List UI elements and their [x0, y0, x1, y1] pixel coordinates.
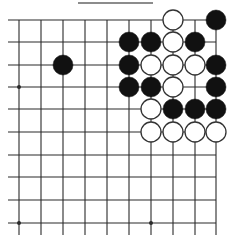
- white-stone[interactable]: [163, 55, 183, 75]
- black-stone[interactable]: [119, 77, 139, 97]
- star-point: [17, 85, 21, 89]
- white-stone[interactable]: [185, 122, 205, 142]
- black-stone[interactable]: [185, 32, 205, 52]
- black-stone[interactable]: [119, 55, 139, 75]
- black-stone[interactable]: [185, 99, 205, 119]
- board-grid: [8, 20, 216, 235]
- black-stone[interactable]: [141, 32, 161, 52]
- go-board[interactable]: [0, 0, 232, 243]
- star-point: [149, 221, 153, 225]
- black-stone[interactable]: [206, 10, 226, 30]
- white-stone[interactable]: [185, 55, 205, 75]
- white-stone[interactable]: [163, 10, 183, 30]
- white-stone[interactable]: [141, 55, 161, 75]
- black-stone[interactable]: [53, 55, 73, 75]
- white-stone[interactable]: [163, 32, 183, 52]
- white-stone[interactable]: [163, 122, 183, 142]
- black-stone[interactable]: [206, 77, 226, 97]
- white-stone[interactable]: [163, 77, 183, 97]
- white-stone[interactable]: [141, 99, 161, 119]
- black-stone[interactable]: [206, 55, 226, 75]
- black-stone[interactable]: [163, 99, 183, 119]
- white-stone[interactable]: [141, 122, 161, 142]
- star-point: [17, 221, 21, 225]
- black-stone[interactable]: [141, 77, 161, 97]
- white-stone[interactable]: [206, 122, 226, 142]
- black-stone[interactable]: [206, 99, 226, 119]
- black-stone[interactable]: [119, 32, 139, 52]
- stones-layer[interactable]: [53, 10, 226, 142]
